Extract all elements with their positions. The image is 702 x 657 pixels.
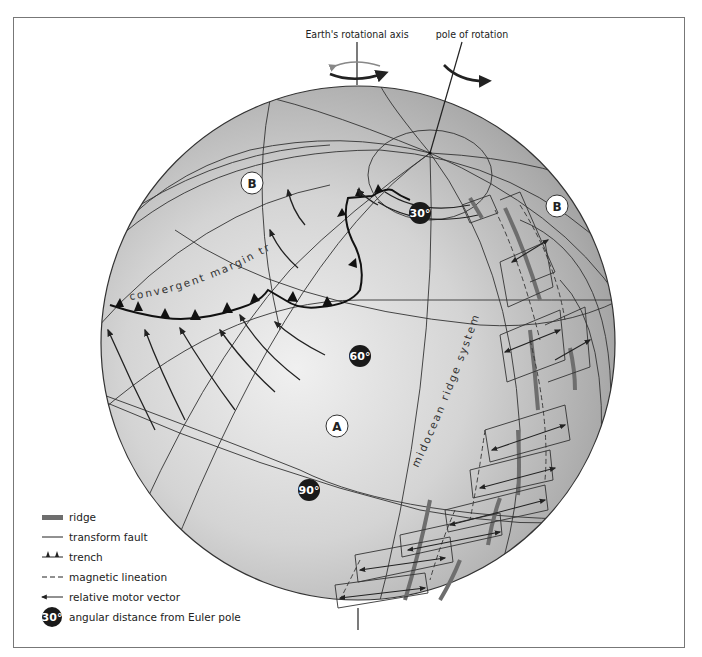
pole-rotation-arrow — [444, 65, 488, 81]
svg-text:60°: 60° — [350, 350, 371, 363]
euler-pole-diagram: B B A 30° 60° 90° convergent margin tren… — [0, 0, 702, 657]
legend-item-transform-fault: transform fault — [42, 531, 148, 543]
svg-text:relative motor vector: relative motor vector — [69, 591, 181, 603]
svg-text:magnetic lineation: magnetic lineation — [69, 571, 167, 583]
legend-item-motion-vector: relative motor vector — [42, 591, 181, 603]
legend-item-trench: trench — [42, 551, 103, 563]
svg-text:ridge: ridge — [69, 511, 96, 523]
angle-badge-60: 60° — [349, 345, 371, 367]
svg-text:B: B — [247, 177, 256, 191]
plate-label-b-right: B — [546, 195, 568, 217]
earth-axis-label: Earth's rotational axis — [305, 28, 408, 40]
svg-text:trench: trench — [69, 551, 103, 563]
plate-label-b-left: B — [241, 172, 263, 194]
svg-text:transform fault: transform fault — [69, 531, 148, 543]
angle-badge-90: 90° — [298, 479, 320, 501]
legend-item-magnetic-lineation: magnetic lineation — [42, 571, 167, 583]
pole-of-rotation-label: pole of rotation — [436, 28, 508, 40]
legend-item-angular-distance: 30° angular distance from Euler pole — [42, 607, 241, 627]
ridge-icon — [42, 515, 63, 520]
trench-icon — [42, 551, 63, 557]
angle-badge-30: 30° — [409, 202, 431, 224]
plate-label-a: A — [326, 415, 348, 437]
legend-item-ridge: ridge — [42, 511, 96, 523]
svg-text:angular distance from Euler po: angular distance from Euler pole — [69, 611, 241, 623]
svg-text:30°: 30° — [410, 207, 431, 220]
svg-text:B: B — [552, 200, 561, 214]
euler-pole-point — [428, 151, 431, 154]
svg-text:30°: 30° — [42, 611, 63, 624]
svg-text:A: A — [332, 420, 342, 434]
globe: B B A 30° 60° 90° convergent margin tren… — [0, 0, 620, 640]
svg-text:90°: 90° — [299, 484, 320, 497]
